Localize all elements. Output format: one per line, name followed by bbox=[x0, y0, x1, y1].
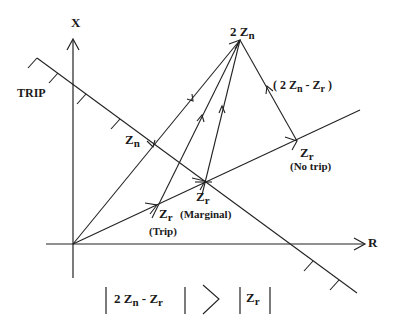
svg-text:Zr: Zr bbox=[159, 206, 173, 223]
svg-text:(Trip): (Trip) bbox=[149, 225, 177, 238]
x-axis-label: X bbox=[71, 15, 81, 30]
svg-text:Zr: Zr bbox=[196, 189, 210, 206]
svg-text:(No trip): (No trip) bbox=[290, 160, 332, 173]
two-zn-label: 2 Zn bbox=[230, 24, 255, 41]
svg-text:Zr: Zr bbox=[246, 290, 260, 307]
zr-no-trip-label: Zr (No trip) bbox=[290, 145, 332, 173]
greater-than-symbol bbox=[203, 285, 219, 314]
svg-text:2 Zn - Zr: 2 Zn - Zr bbox=[114, 291, 163, 308]
trip-boundary-line bbox=[28, 58, 357, 293]
zr-locus-line bbox=[73, 110, 360, 244]
trip-condition-formula: 2 Zn - Zr Zr bbox=[106, 285, 270, 314]
svg-text:(Marginal): (Marginal) bbox=[180, 208, 232, 221]
zn-label: Zn bbox=[125, 132, 140, 149]
zr-marginal-label: Zr (Marginal) bbox=[180, 189, 232, 221]
protection-relay-diagram: X R TRIP bbox=[0, 0, 394, 331]
r-axis bbox=[46, 238, 365, 250]
r-axis-label: R bbox=[368, 235, 378, 250]
difference-label: ( 2 Zn - Zr ) bbox=[273, 78, 332, 94]
zr-trip-label: Zr (Trip) bbox=[149, 206, 177, 238]
trip-label: TRIP bbox=[17, 86, 46, 100]
